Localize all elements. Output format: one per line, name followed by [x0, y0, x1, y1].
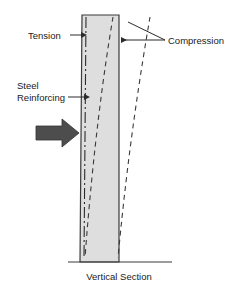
figure-caption: Vertical Section — [86, 271, 151, 282]
steel-reinforcing-label-line1: Steel — [17, 80, 39, 91]
steel-reinforcing-label-line2: Reinforcing — [17, 92, 65, 103]
tension-label: Tension — [28, 30, 61, 41]
vertical-section-diagram: Tension Compression Steel Reinforcing Ve… — [0, 0, 238, 291]
lateral-load-arrow — [36, 119, 79, 147]
deflected-shape-outer-dashed — [118, 17, 150, 258]
compression-label: Compression — [168, 35, 224, 46]
diagram-canvas: Tension Compression Steel Reinforcing Ve… — [0, 0, 238, 291]
concrete-column-body — [80, 15, 119, 262]
